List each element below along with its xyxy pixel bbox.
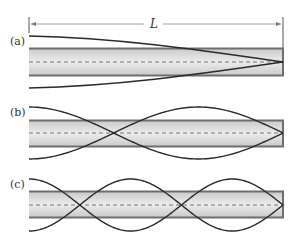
right-arrowhead-icon bbox=[276, 22, 281, 26]
panel-c-label: (c) bbox=[10, 178, 25, 191]
panel-b-label: (b) bbox=[10, 106, 26, 119]
panel-c: (c) bbox=[10, 178, 284, 231]
panel-a-label: (a) bbox=[10, 35, 25, 48]
panel-b: (b) bbox=[10, 106, 284, 159]
left-arrowhead-icon bbox=[31, 22, 36, 26]
length-label: L bbox=[149, 17, 158, 31]
length-dimension: L bbox=[29, 17, 283, 48]
standing-wave-diagram: L (a) (b) (c) bbox=[0, 0, 297, 240]
tube-b bbox=[29, 120, 283, 147]
panel-a: (a) bbox=[10, 35, 284, 88]
